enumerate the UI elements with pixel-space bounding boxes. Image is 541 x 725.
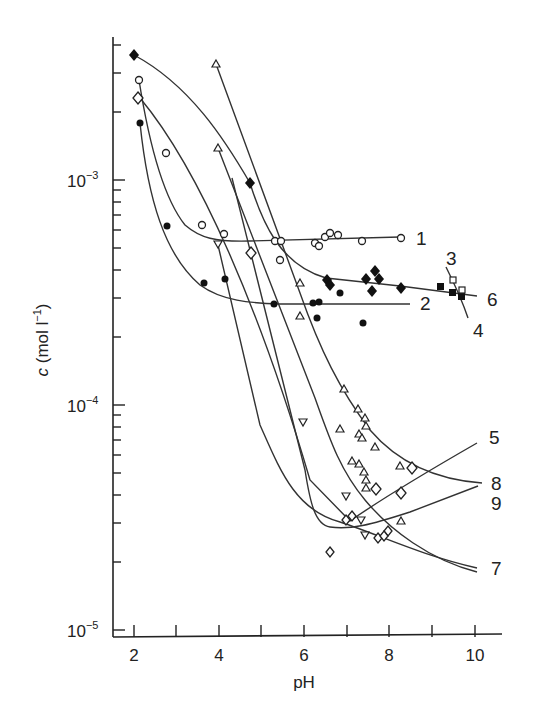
svg-text:7: 7 bbox=[491, 558, 502, 579]
y-ticks bbox=[113, 45, 125, 630]
svg-text:1: 1 bbox=[416, 228, 427, 249]
svg-text:3: 3 bbox=[446, 248, 457, 269]
series-8-markers bbox=[214, 144, 405, 524]
x-axis-label: pH bbox=[293, 673, 315, 692]
curve-labels: 1 2 3 4 5 6 7 8 9 bbox=[416, 228, 502, 579]
y-axis-label: c (mol l−1) bbox=[31, 304, 52, 377]
chart-canvas: 2 4 6 8 10 pH 10−5 10−4 10−3 bbox=[0, 0, 541, 725]
svg-text:10−5: 10−5 bbox=[67, 619, 98, 641]
svg-text:10−3: 10−3 bbox=[67, 169, 98, 191]
series-2-markers bbox=[137, 120, 367, 327]
series-6-markers bbox=[129, 49, 406, 297]
svg-text:4: 4 bbox=[214, 646, 223, 665]
svg-text:2: 2 bbox=[420, 293, 431, 314]
series-9-markers bbox=[212, 60, 404, 469]
svg-text:6: 6 bbox=[299, 646, 308, 665]
svg-text:9: 9 bbox=[491, 493, 502, 514]
svg-text:2: 2 bbox=[129, 646, 138, 665]
y-tick-labels: 10−5 10−4 10−3 bbox=[67, 169, 98, 641]
svg-text:8: 8 bbox=[384, 646, 393, 665]
x-axis bbox=[113, 634, 502, 637]
svg-text:4: 4 bbox=[473, 320, 484, 341]
svg-text:10−4: 10−4 bbox=[67, 394, 98, 416]
x-tick-labels: 2 4 6 8 10 bbox=[129, 646, 484, 665]
svg-text:8: 8 bbox=[491, 473, 502, 494]
svg-text:5: 5 bbox=[489, 427, 500, 448]
svg-text:10: 10 bbox=[466, 646, 485, 665]
series-1-markers bbox=[136, 77, 405, 264]
series-5-markers bbox=[133, 92, 417, 557]
svg-text:6: 6 bbox=[487, 289, 498, 310]
